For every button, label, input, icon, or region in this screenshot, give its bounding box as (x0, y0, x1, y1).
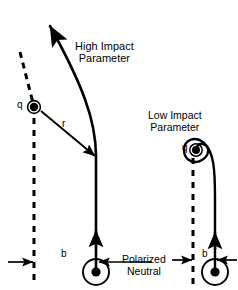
label-low-impact-line2: Parameter (148, 122, 202, 134)
charge-q-right-core (192, 146, 200, 154)
label-low-impact-parameter: Low Impact Parameter (148, 110, 202, 134)
physics-diagram: High Impact Parameter Low Impact Paramet… (0, 0, 238, 290)
label-polarized-line2: Neutral (122, 266, 166, 278)
radius-vector-r (41, 111, 95, 156)
label-polarized-neutral: Polarized Neutral (122, 254, 166, 278)
label-charge-q-right: q (182, 142, 188, 153)
label-high-impact-line2: Parameter (75, 52, 134, 64)
label-charge-q-left: q (17, 99, 23, 110)
label-radius-r: r (62, 118, 65, 129)
label-polarized-line1: Polarized (122, 254, 166, 266)
label-impact-parameter-right: b (202, 248, 208, 259)
charge-q-left-core (30, 103, 38, 111)
label-low-impact-line1: Low Impact (148, 110, 202, 122)
label-high-impact-line1: High Impact (75, 40, 134, 52)
label-impact-parameter-left: b (61, 248, 67, 259)
polarized-neutral-particle-right-core (210, 267, 219, 276)
polarized-neutral-particle-left-core (91, 267, 100, 276)
label-high-impact-parameter: High Impact Parameter (75, 40, 134, 65)
trajectory-low-impact-spiral (184, 139, 215, 272)
